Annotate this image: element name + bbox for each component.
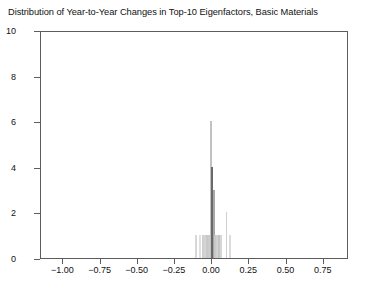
histogram-bar (229, 235, 231, 258)
y-axis-tick (34, 122, 40, 123)
x-axis-tick (286, 259, 287, 264)
histogram-bar (199, 235, 201, 258)
y-axis-tick (34, 31, 40, 32)
y-axis-tick-label: 2 (0, 208, 16, 218)
x-axis-tick-label: 0.50 (277, 265, 295, 275)
x-axis-tick (100, 259, 101, 264)
histogram-bars (41, 32, 347, 258)
histogram-figure: Distribution of Year-to-Year Changes in … (0, 0, 368, 296)
y-axis-tick-label: 8 (0, 72, 16, 82)
x-axis-tick-label: −0.75 (88, 265, 111, 275)
histogram-bar (195, 235, 197, 258)
histogram-bar (226, 212, 228, 258)
x-axis-tick (211, 259, 212, 264)
x-axis-tick-label: −1.00 (51, 265, 74, 275)
y-axis-tick-label: 0 (0, 254, 16, 264)
y-axis-tick-label: 10 (0, 26, 16, 36)
y-axis-tick-label: 6 (0, 117, 16, 127)
histogram-bar (220, 235, 222, 258)
x-axis-tick (137, 259, 138, 264)
x-axis-tick (248, 259, 249, 264)
x-axis-tick-label: 0.75 (314, 265, 332, 275)
x-axis-tick-label: −0.50 (125, 265, 148, 275)
x-axis-tick (62, 259, 63, 264)
x-axis-tick-label: 0.00 (202, 265, 220, 275)
y-axis-tick-label: 4 (0, 163, 16, 173)
y-axis-tick (34, 213, 40, 214)
x-axis-tick-label: 0.25 (240, 265, 258, 275)
x-axis-tick (174, 259, 175, 264)
y-axis-tick (34, 168, 40, 169)
plot-area (40, 31, 348, 259)
y-axis-tick (34, 259, 40, 260)
y-axis-tick (34, 77, 40, 78)
chart-title: Distribution of Year-to-Year Changes in … (8, 6, 318, 18)
x-axis-tick (323, 259, 324, 264)
x-axis-tick-label: −0.25 (163, 265, 186, 275)
